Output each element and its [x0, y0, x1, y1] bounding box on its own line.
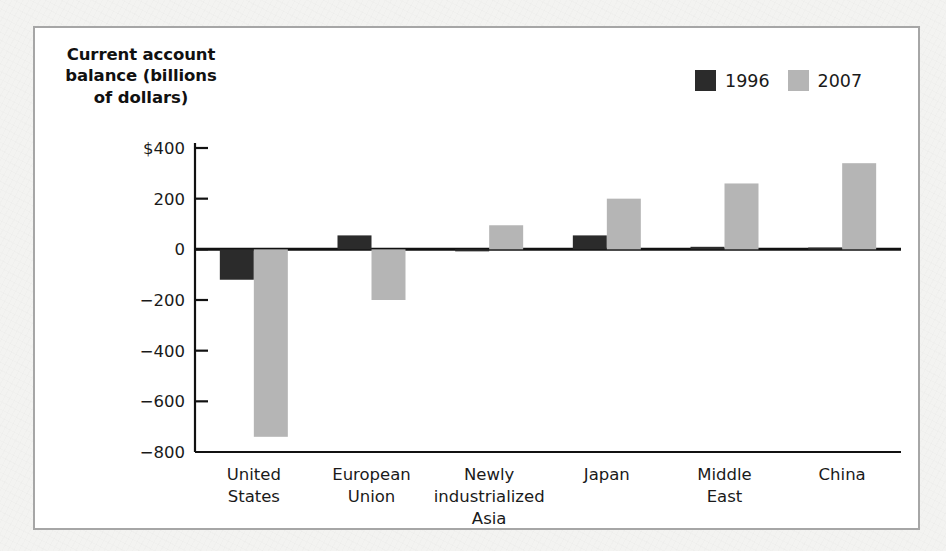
- bar-1996-middle-east[interactable]: [691, 247, 725, 250]
- bar-chart: $4002000−200−400−600−800UnitedStatesEuro…: [35, 28, 922, 532]
- x-axis-category-label: Newly: [464, 465, 515, 484]
- x-axis-category-label: Middle: [697, 465, 752, 484]
- x-axis-category-label: Union: [348, 487, 396, 506]
- bar-1996-china[interactable]: [808, 248, 842, 250]
- x-axis-category-label: United: [227, 465, 281, 484]
- x-axis-category-label: Japan: [583, 465, 630, 484]
- x-axis-category-label: Asia: [472, 509, 507, 528]
- y-axis-tick-label: 0: [175, 240, 186, 259]
- bar-2007-china[interactable]: [842, 163, 876, 249]
- y-axis-tick-label: $400: [143, 139, 185, 158]
- bar-2007-european-union[interactable]: [372, 249, 406, 300]
- bar-1996-newly-industrialized-asia[interactable]: [455, 249, 489, 251]
- y-axis-tick-label: −600: [140, 392, 185, 411]
- bar-2007-newly-industrialized-asia[interactable]: [489, 225, 523, 249]
- bar-2007-united-states[interactable]: [254, 249, 288, 436]
- bar-1996-united-states[interactable]: [220, 249, 254, 279]
- bar-2007-japan[interactable]: [607, 199, 641, 250]
- bar-1996-japan[interactable]: [573, 235, 607, 249]
- plot-area: $4002000−200−400−600−800UnitedStatesEuro…: [35, 28, 922, 532]
- x-axis-category-label: East: [707, 487, 743, 506]
- x-axis-category-label: industrialized: [434, 487, 545, 506]
- figure-frame: Current account balance (billions of dol…: [33, 26, 920, 530]
- x-axis-category-label: European: [332, 465, 411, 484]
- y-axis-tick-label: −200: [140, 291, 185, 310]
- x-axis-category-label: States: [228, 487, 280, 506]
- y-axis-tick-label: −800: [140, 443, 185, 462]
- y-axis-tick-label: 200: [154, 190, 186, 209]
- bar-2007-middle-east[interactable]: [725, 183, 759, 249]
- x-axis-category-label: China: [819, 465, 866, 484]
- y-axis-tick-label: −400: [140, 342, 185, 361]
- bar-1996-european-union[interactable]: [338, 235, 372, 249]
